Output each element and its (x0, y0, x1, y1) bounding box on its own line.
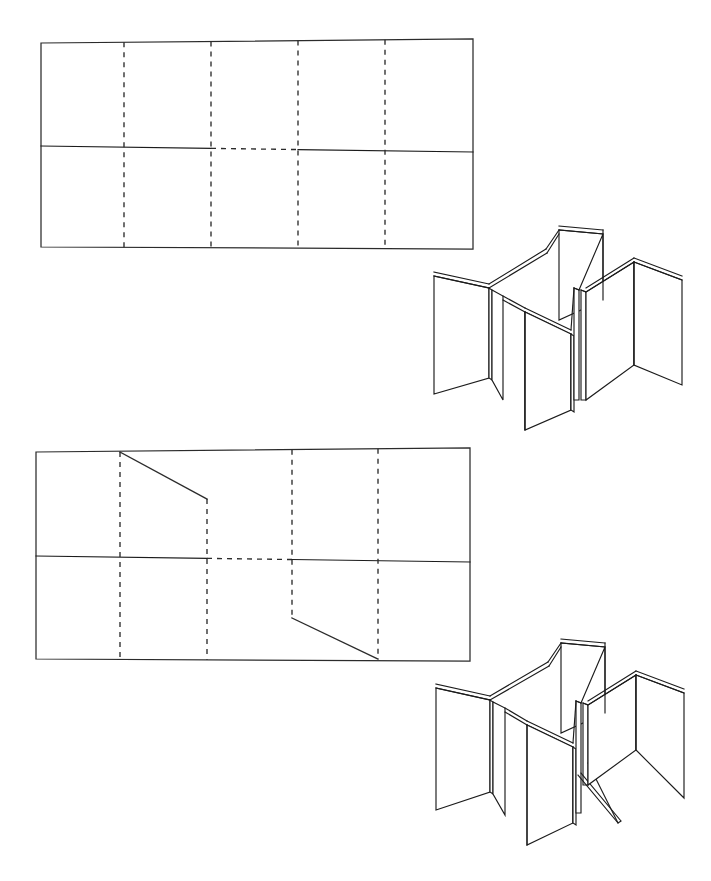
figure-root (0, 0, 711, 881)
solid2-slab-1 (576, 701, 581, 813)
figure-2-solid (0, 0, 711, 881)
solid2-left-crease (490, 662, 549, 700)
solid2-back-tall-fold (548, 643, 561, 666)
solid2-slab-2 (583, 703, 588, 785)
solid2-group (436, 639, 684, 845)
solid2-panel-mid-front-b (527, 725, 573, 845)
solid2-rail-top (505, 708, 527, 725)
solid2-panel-left-c (493, 702, 505, 815)
solid2-panel-left-a (436, 688, 490, 810)
solid2-panel-right-b (636, 675, 684, 798)
